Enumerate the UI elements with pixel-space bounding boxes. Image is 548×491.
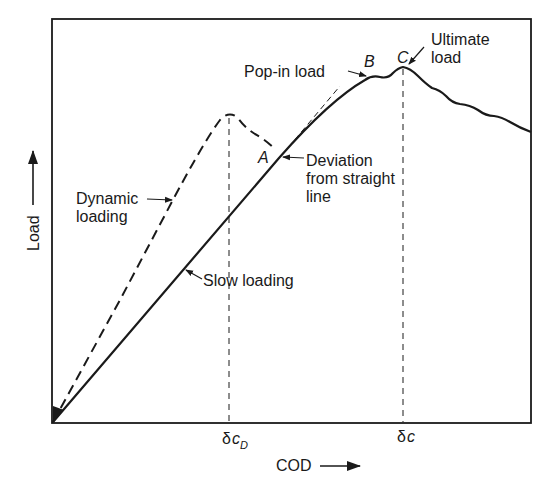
x-axis-label: COD (276, 457, 312, 474)
tick-delta-cd: δcD (222, 430, 248, 451)
point-b-label: B (364, 53, 375, 70)
tick-delta-c: δc (397, 428, 415, 445)
point-c-label: C (397, 49, 409, 66)
dynamic-loading-curve (53, 114, 276, 422)
slow-loading-pointer (186, 270, 202, 279)
ultimate-load-label-2: load (431, 49, 461, 66)
deviation-label-3: line (306, 188, 331, 205)
deviation-pointer (283, 157, 304, 158)
slow-loading-curve (53, 67, 531, 422)
slow-loading-label: Slow loading (203, 272, 294, 289)
y-axis-label: Load (25, 215, 42, 251)
ultimate-load-pointer (409, 47, 424, 64)
dynamic-loading-pointer (147, 199, 172, 200)
load-cod-diagram: Load COD δcD δc Dynamic loading Slow loa… (0, 0, 548, 491)
dynamic-loading-label: Dynamic (76, 190, 138, 207)
deviation-label-2: from straight (306, 170, 395, 187)
ultimate-load-label-1: Ultimate (431, 31, 490, 48)
dynamic-loading-label-2: loading (76, 208, 128, 225)
pop-in-load-label: Pop-in load (244, 63, 325, 80)
pop-in-pointer (348, 71, 366, 76)
origin-wedge (53, 406, 64, 422)
point-a-label: A (257, 149, 269, 166)
deviation-label-1: Deviation (306, 152, 373, 169)
